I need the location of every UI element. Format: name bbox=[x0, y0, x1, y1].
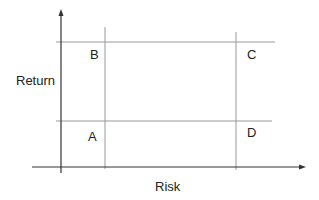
quadrant-label-a: A bbox=[88, 130, 97, 143]
quadrant-label-d: D bbox=[247, 126, 256, 139]
x-axis-label: Risk bbox=[155, 180, 180, 193]
y-axis-arrow-icon bbox=[59, 9, 64, 16]
y-axis-label: Return bbox=[16, 74, 55, 87]
quadrant-label-b: B bbox=[90, 48, 99, 61]
diagram-canvas bbox=[0, 0, 319, 200]
risk-return-diagram: B C A D Return Risk bbox=[0, 0, 319, 200]
quadrant-label-c: C bbox=[247, 48, 256, 61]
x-axis-arrow-icon bbox=[299, 165, 306, 170]
